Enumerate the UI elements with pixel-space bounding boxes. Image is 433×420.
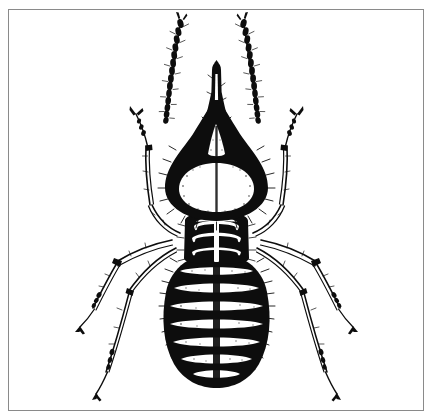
abdomen <box>159 253 275 388</box>
nasus-highlight <box>215 74 218 100</box>
figure-root: Dorsal view line drawing of a nasute ter… <box>0 0 433 420</box>
nasus <box>205 60 228 120</box>
left-antenna <box>159 12 188 124</box>
right-antenna <box>235 12 264 124</box>
termite-illustration: Dorsal view line drawing of a nasute ter… <box>0 0 433 420</box>
right-midleg <box>261 240 359 335</box>
left-midleg <box>75 240 173 335</box>
